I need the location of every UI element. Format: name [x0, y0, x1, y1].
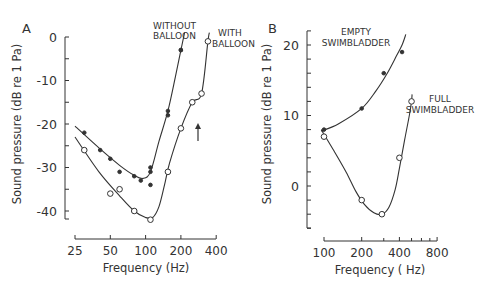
open-point	[108, 191, 114, 197]
open-point	[117, 186, 123, 192]
label-full-swimbladder-2: SWIMBLADDER	[406, 105, 474, 115]
label-without-balloon-2: BALLOON	[153, 31, 196, 41]
filled-point	[400, 50, 404, 54]
y-tick-label: -30	[37, 160, 57, 175]
x-tick-label: 25	[67, 244, 82, 258]
y-tick-label: 10	[283, 108, 299, 123]
panel-b-curves	[321, 34, 412, 214]
y-tick-label: -40	[37, 204, 57, 219]
y-tick-label: 20	[283, 38, 299, 53]
open-point	[409, 99, 415, 105]
filled-point	[149, 183, 153, 187]
x-tick-label: 400	[388, 246, 411, 260]
open-point	[199, 91, 205, 97]
filled-point	[132, 174, 136, 178]
curve-without-balloon	[75, 33, 185, 179]
filled-point	[98, 148, 102, 152]
panel-a-axes: 0-10-20-30-402550100200400	[37, 30, 228, 259]
panel-b-axes: 20100100200400800	[283, 31, 448, 260]
label-empty-swimbladder-1: EMPTY	[341, 27, 371, 37]
panel-a-ylabel: Sound pressure (dB re 1 Pa)	[10, 44, 24, 205]
filled-point	[382, 71, 386, 75]
y-tick-label: 0	[291, 179, 299, 194]
panel-b-xlabel: Frequency ( Hz)	[335, 263, 425, 277]
curve-with-balloon	[75, 33, 209, 219]
open-point	[359, 197, 365, 203]
y-tick-label: -10	[37, 73, 57, 88]
panel-a-xlabel: Frequency (Hz)	[103, 261, 190, 275]
open-point	[165, 169, 171, 175]
y-tick-label: -20	[37, 117, 57, 132]
panel-a: A Sound pressure (dB re 1 Pa) Frequency …	[10, 21, 255, 275]
x-tick-label: 50	[103, 244, 118, 258]
x-tick-label: 800	[426, 246, 449, 260]
panel-b-ylabel: Sound pressure (dB re 1 Pa)	[260, 44, 274, 205]
x-tick-label: 100	[313, 246, 336, 260]
filled-point	[360, 107, 364, 111]
filled-point	[149, 170, 153, 174]
open-point	[205, 39, 211, 45]
x-tick-label: 200	[169, 244, 192, 258]
filled-point	[322, 128, 326, 132]
filled-point	[166, 109, 170, 113]
open-point	[178, 126, 184, 132]
panel-b-points	[321, 50, 414, 217]
filled-point	[109, 157, 113, 161]
open-point	[148, 217, 154, 223]
open-point	[379, 211, 385, 217]
label-without-balloon-1: WITHOUT	[153, 21, 196, 31]
label-with-balloon-1: WITH	[218, 28, 242, 38]
filled-point	[149, 166, 153, 170]
label-full-swimbladder-1: FULL	[429, 94, 451, 104]
filled-point	[118, 170, 122, 174]
panel-a-points	[81, 39, 210, 223]
panel-b-letter: B	[268, 21, 277, 36]
figure: A Sound pressure (dB re 1 Pa) Frequency …	[0, 0, 492, 292]
label-empty-swimbladder-2: SWIMBLADDER	[322, 38, 390, 48]
x-tick-label: 400	[205, 244, 228, 258]
filled-point	[179, 48, 183, 52]
y-tick-label: 0	[49, 30, 57, 45]
open-point	[189, 99, 195, 105]
open-point	[321, 134, 327, 140]
open-point	[397, 155, 403, 161]
curve-empty-swimbladder	[321, 34, 406, 131]
x-tick-label: 100	[134, 244, 157, 258]
open-point	[131, 208, 137, 214]
x-tick-label: 200	[350, 246, 373, 260]
arrow-icon	[195, 123, 201, 141]
open-point	[81, 147, 87, 153]
curve-full-swimbladder	[321, 94, 412, 214]
filled-point	[139, 179, 143, 183]
filled-point	[82, 131, 86, 135]
label-with-balloon-2: BALLOON	[212, 39, 255, 49]
filled-point	[166, 114, 170, 118]
panel-b: B Sound pressure (dB re 1 Pa) Frequency …	[260, 21, 474, 277]
panel-a-letter: A	[22, 21, 31, 36]
panel-a-curves	[75, 33, 209, 219]
